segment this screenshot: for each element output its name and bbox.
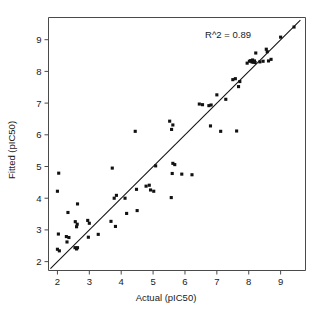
data-point [57, 232, 60, 235]
x-tick-label: 4 [119, 276, 124, 287]
x-tick-label: 8 [246, 276, 251, 287]
data-point [113, 197, 116, 200]
data-point [56, 190, 59, 193]
data-point [145, 185, 148, 188]
x-tick-label: 2 [55, 276, 60, 287]
data-point [134, 130, 137, 133]
data-point [171, 123, 174, 126]
data-point [237, 85, 240, 88]
data-point [219, 130, 222, 133]
scatter-plot-figure: 23456789 23456789 Actual (pIC50) Fitted … [0, 0, 320, 309]
data-point [109, 220, 112, 223]
data-point [66, 211, 69, 214]
data-point [111, 167, 114, 170]
data-point [170, 128, 173, 131]
x-axis-ticks: 23456789 [55, 271, 283, 287]
y-axis-title: Fitted (pIC50) [6, 121, 17, 179]
data-point [57, 172, 60, 175]
data-point [292, 25, 295, 28]
data-point [65, 240, 68, 243]
data-point [201, 103, 204, 106]
y-tick-label: 6 [36, 129, 41, 140]
data-point [198, 103, 201, 106]
y-tick-label: 2 [36, 256, 41, 267]
data-point [171, 172, 174, 175]
y-tick-label: 4 [36, 193, 41, 204]
data-point [254, 51, 257, 54]
data-point [149, 188, 152, 191]
data-point [67, 236, 70, 239]
y-axis-ticks: 23456789 [36, 34, 48, 267]
data-point [238, 80, 241, 83]
data-point [262, 60, 265, 63]
data-point [76, 202, 79, 205]
data-point [170, 196, 173, 199]
data-point [148, 184, 151, 187]
data-point [266, 50, 269, 53]
data-point [235, 129, 238, 132]
identity-fit-line [50, 20, 300, 269]
data-point [180, 173, 183, 176]
x-tick-label: 5 [150, 276, 155, 287]
data-point [258, 60, 261, 63]
x-tick-label: 6 [182, 276, 187, 287]
data-point [209, 124, 212, 127]
data-point [136, 209, 139, 212]
data-points-layer [56, 25, 296, 252]
data-point [86, 219, 89, 222]
data-point [76, 246, 79, 249]
y-tick-label: 8 [36, 66, 41, 77]
y-tick-label: 9 [36, 34, 41, 45]
data-point [114, 225, 117, 228]
y-tick-label: 7 [36, 98, 41, 109]
data-point [279, 36, 282, 39]
annotation-layer: R^2 = 0.89 [205, 29, 251, 40]
data-point [173, 163, 176, 166]
y-tick-label: 5 [36, 161, 41, 172]
data-point [190, 173, 193, 176]
data-point [215, 93, 218, 96]
data-point [76, 223, 79, 226]
data-point [125, 212, 128, 215]
data-point [87, 236, 90, 239]
data-point [254, 61, 257, 64]
data-point [168, 120, 171, 123]
y-tick-label: 3 [36, 224, 41, 235]
x-tick-label: 9 [278, 276, 283, 287]
data-point [152, 190, 155, 193]
data-point [224, 98, 227, 101]
chart-canvas: 23456789 23456789 Actual (pIC50) Fitted … [0, 0, 320, 309]
r-squared-annotation: R^2 = 0.89 [205, 29, 251, 40]
data-point [270, 58, 273, 61]
data-point [154, 164, 157, 167]
x-tick-label: 3 [87, 276, 92, 287]
data-point [88, 222, 91, 225]
data-point [115, 194, 118, 197]
x-axis-title: Actual (pIC50) [136, 292, 197, 303]
x-tick-label: 7 [214, 276, 219, 287]
data-point [135, 188, 138, 191]
data-point [97, 233, 100, 236]
data-point [234, 77, 237, 80]
data-point [210, 103, 213, 106]
data-point [123, 197, 126, 200]
data-point [58, 249, 61, 252]
identity-fit-line [50, 20, 300, 269]
